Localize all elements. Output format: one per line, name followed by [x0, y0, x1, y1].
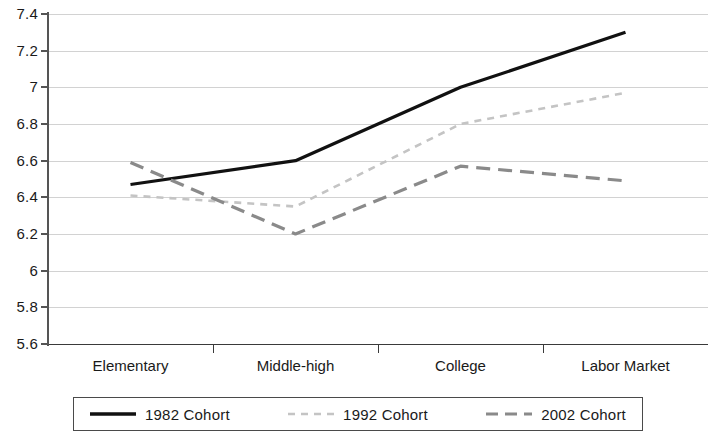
legend-item-1982: 1982 Cohort [90, 407, 230, 422]
series-line [131, 32, 626, 184]
legend-swatch-2002 [486, 409, 532, 419]
legend-label-1992: 1992 Cohort [343, 407, 428, 422]
legend-swatch-1982 [90, 409, 136, 419]
legend-item-1992: 1992 Cohort [288, 407, 428, 422]
legend-label-1982: 1982 Cohort [145, 407, 230, 422]
legend-swatch-1992 [288, 409, 334, 419]
series-line [131, 93, 626, 207]
line-chart-figure: 5.65.866.26.46.66.877.27.4 ElementaryMid… [0, 0, 713, 437]
series-lines [0, 0, 713, 437]
legend: 1982 Cohort 1992 Cohort 2002 Cohort [73, 397, 643, 431]
legend-label-2002: 2002 Cohort [541, 407, 626, 422]
legend-item-2002: 2002 Cohort [486, 407, 626, 422]
